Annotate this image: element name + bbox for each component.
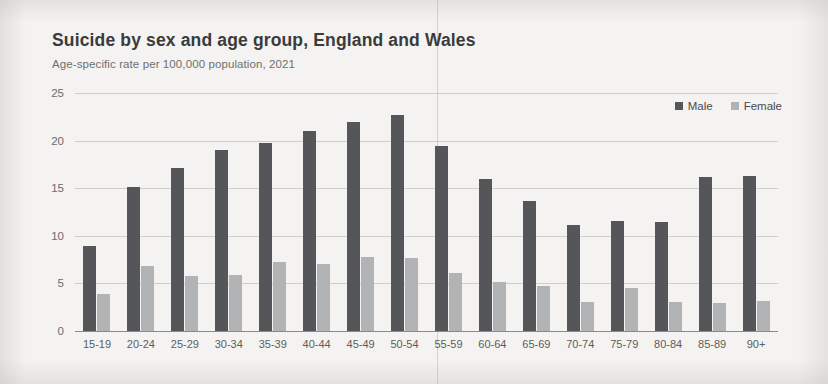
- bar-female-90+[interactable]: [757, 301, 770, 331]
- bar-female-60-64[interactable]: [493, 282, 506, 332]
- bar-male-55-59[interactable]: [435, 146, 448, 331]
- bar-male-75-79[interactable]: [611, 221, 624, 331]
- bar-male-25-29[interactable]: [171, 168, 184, 331]
- bar-group-80-84: [646, 93, 690, 331]
- x-axis-label-70-74: 70-74: [558, 338, 602, 350]
- x-axis-label-90+: 90+: [734, 338, 778, 350]
- y-axis-tick-label: 0: [58, 325, 64, 337]
- bar-female-35-39[interactable]: [273, 262, 286, 331]
- bar-group-90+: [734, 93, 778, 331]
- bar-group-40-44: [295, 93, 339, 331]
- bar-male-35-39[interactable]: [259, 143, 272, 331]
- bar-group-75-79: [602, 93, 646, 331]
- bar-group-25-29: [163, 93, 207, 331]
- bar-group-30-34: [207, 93, 251, 331]
- x-axis-label-75-79: 75-79: [602, 338, 646, 350]
- x-axis-label-30-34: 30-34: [207, 338, 251, 350]
- x-axis-label-80-84: 80-84: [646, 338, 690, 350]
- bar-female-85-89[interactable]: [713, 303, 726, 331]
- x-axis-label-25-29: 25-29: [163, 338, 207, 350]
- y-axis-tick-label: 15: [51, 182, 64, 194]
- x-axis-label-45-49: 45-49: [339, 338, 383, 350]
- chart-title: Suicide by sex and age group, England an…: [52, 30, 476, 51]
- x-axis-label-15-19: 15-19: [75, 338, 119, 350]
- bar-group-65-69: [514, 93, 558, 331]
- bar-female-25-29[interactable]: [185, 276, 198, 331]
- x-axis-label-50-54: 50-54: [383, 338, 427, 350]
- bar-female-55-59[interactable]: [449, 273, 462, 331]
- bar-male-40-44[interactable]: [303, 131, 316, 331]
- x-axis-label-55-59: 55-59: [427, 338, 471, 350]
- bar-female-45-49[interactable]: [361, 257, 374, 331]
- y-axis-tick-label: 20: [51, 135, 64, 147]
- bar-female-30-34[interactable]: [229, 275, 242, 331]
- bar-female-40-44[interactable]: [317, 264, 330, 331]
- bar-female-50-54[interactable]: [405, 258, 418, 331]
- bar-group-70-74: [558, 93, 602, 331]
- chart-figure: Suicide by sex and age group, England an…: [0, 0, 828, 384]
- x-axis-label-85-89: 85-89: [690, 338, 734, 350]
- bar-group-55-59: [427, 93, 471, 331]
- bar-male-60-64[interactable]: [479, 179, 492, 331]
- plot-area: 0510152025: [75, 93, 778, 331]
- bar-male-65-69[interactable]: [523, 201, 536, 331]
- bar-female-20-24[interactable]: [141, 266, 154, 331]
- bar-male-20-24[interactable]: [127, 187, 140, 331]
- y-axis-tick-label: 25: [51, 87, 64, 99]
- x-axis-label-65-69: 65-69: [514, 338, 558, 350]
- x-axis-labels: 15-1920-2425-2930-3435-3940-4445-4950-54…: [75, 338, 778, 350]
- x-axis-label-60-64: 60-64: [470, 338, 514, 350]
- bar-female-75-79[interactable]: [625, 288, 638, 331]
- bar-male-50-54[interactable]: [391, 115, 404, 331]
- bar-female-70-74[interactable]: [581, 302, 594, 332]
- bar-female-15-19[interactable]: [97, 294, 110, 331]
- bar-group-35-39: [251, 93, 295, 331]
- chart-subtitle: Age-specific rate per 100,000 population…: [52, 58, 295, 70]
- bar-group-45-49: [339, 93, 383, 331]
- bar-male-30-34[interactable]: [215, 150, 228, 331]
- bar-group-60-64: [470, 93, 514, 331]
- y-axis-tick-label: 5: [58, 277, 64, 289]
- bar-group-15-19: [75, 93, 119, 331]
- x-axis-label-40-44: 40-44: [295, 338, 339, 350]
- bar-female-65-69[interactable]: [537, 286, 550, 331]
- x-axis-label-20-24: 20-24: [119, 338, 163, 350]
- y-axis-tick-label: 10: [51, 230, 64, 242]
- bar-female-80-84[interactable]: [669, 302, 682, 331]
- scanned-page: Suicide by sex and age group, England an…: [0, 0, 828, 384]
- bar-groups: [75, 93, 778, 331]
- bar-male-85-89[interactable]: [699, 177, 712, 331]
- bar-male-15-19[interactable]: [83, 246, 96, 331]
- bar-male-70-74[interactable]: [567, 225, 580, 331]
- bar-male-45-49[interactable]: [347, 122, 360, 331]
- bar-male-90+[interactable]: [743, 176, 756, 331]
- bar-group-85-89: [690, 93, 734, 331]
- x-axis-label-35-39: 35-39: [251, 338, 295, 350]
- x-axis-baseline: 0: [75, 331, 778, 332]
- bar-group-20-24: [119, 93, 163, 331]
- bar-male-80-84[interactable]: [655, 222, 668, 331]
- bar-group-50-54: [383, 93, 427, 331]
